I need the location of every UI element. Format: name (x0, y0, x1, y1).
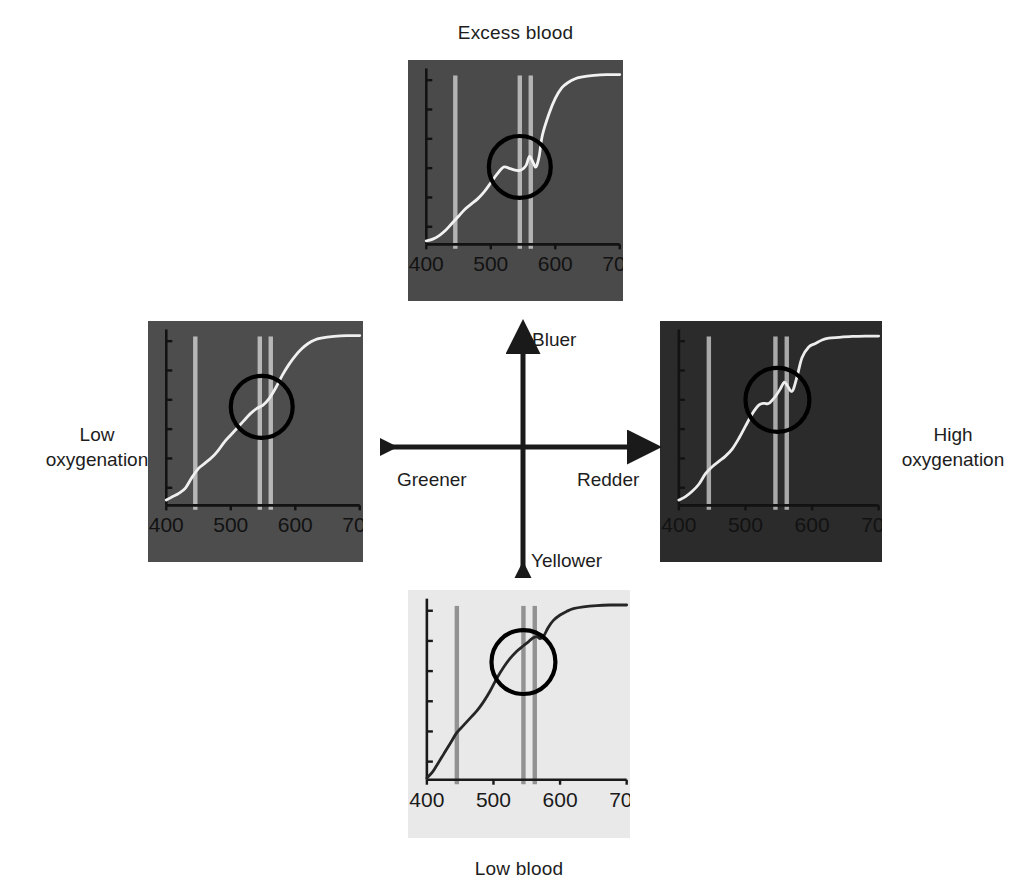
wavelength-marker-bar (269, 336, 273, 509)
side-label-right-line1: High (878, 422, 1025, 447)
spectral-panel-excess-blood: 400500600700 (408, 60, 623, 301)
axis-label-greener: Greener (397, 469, 467, 491)
spectral-panel-high-oxygenation: 400500600700 (660, 321, 882, 562)
colour-axis-cross (380, 316, 666, 578)
x-tick-label: 400 (409, 252, 444, 275)
spectral-panel-low-oxygenation: 400500600700 (148, 321, 363, 562)
x-tick-label: 400 (409, 788, 444, 811)
x-tick-label: 600 (795, 513, 830, 536)
wavelength-marker-bar (773, 336, 777, 509)
axis-label-redder: Redder (577, 469, 639, 491)
spectral-plot-left: 400500600700 (148, 321, 363, 562)
figure-canvas: Excess blood 400500600700 Low oxygenatio… (0, 0, 1025, 896)
x-tick-label: 700 (342, 513, 363, 536)
x-tick-label: 700 (602, 252, 623, 275)
x-tick-label: 400 (149, 513, 184, 536)
spectral-plot-right: 400500600700 (660, 321, 882, 562)
x-tick-label: 500 (213, 513, 248, 536)
x-tick-label: 400 (661, 513, 696, 536)
spectral-plot-top: 400500600700 (408, 60, 623, 301)
axis-label-yellower: Yellower (531, 550, 602, 572)
spectral-panel-low-blood: 400500600700 (408, 590, 630, 838)
side-label-right-line2: oxygenation (878, 447, 1025, 472)
x-tick-label: 500 (473, 252, 508, 275)
x-tick-label: 700 (609, 788, 630, 811)
wavelength-marker-bar (193, 336, 197, 509)
spectral-plot-bottom: 400500600700 (408, 590, 630, 838)
panel-title-bottom: Low blood (408, 858, 630, 880)
panel-title-top: Excess blood (408, 22, 623, 44)
wavelength-marker-bar (455, 606, 459, 784)
wavelength-marker-bar (707, 336, 711, 509)
x-tick-label: 500 (476, 788, 511, 811)
x-tick-label: 600 (278, 513, 313, 536)
wavelength-marker-bar (785, 336, 789, 509)
side-label-right-oxygenation: High oxygenation (878, 422, 1025, 472)
wavelength-marker-bar (518, 75, 522, 248)
wavelength-marker-bar (258, 336, 262, 509)
x-tick-label: 600 (538, 252, 573, 275)
x-tick-label: 600 (543, 788, 578, 811)
axis-label-bluer: Bluer (532, 329, 576, 351)
x-tick-label: 500 (728, 513, 763, 536)
x-tick-label: 700 (861, 513, 882, 536)
